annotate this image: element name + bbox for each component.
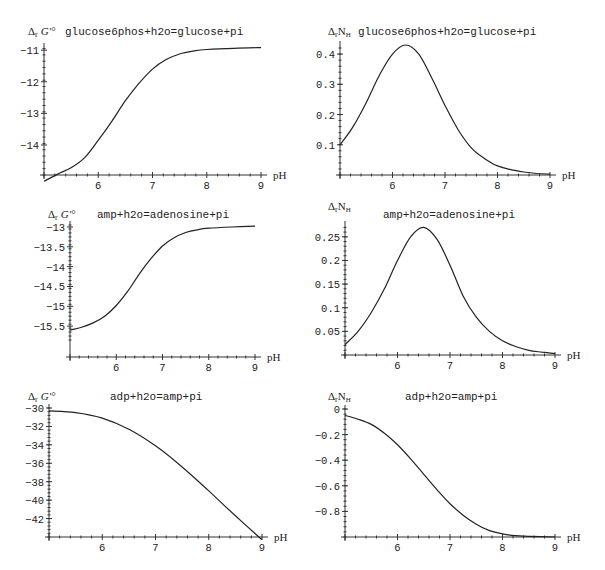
- y-tick-label: −11: [20, 45, 39, 57]
- y-tick-label: −32: [25, 421, 44, 433]
- y-tick-label: −0.6: [315, 481, 340, 493]
- x-axis-label: pH: [567, 349, 581, 361]
- y-tick-label: 0.25: [315, 232, 340, 244]
- y-tick-label: 0.3: [316, 79, 335, 91]
- x-tick-label: 8: [204, 180, 210, 192]
- figure-canvas: ΔrG'°glucose6phos+h2o=glucose+pi6789pH−1…: [0, 0, 605, 570]
- x-axis-label: pH: [567, 531, 581, 543]
- x-tick-label: 6: [99, 542, 105, 554]
- chart-panel-3: ΔrG'°amp+h2o=adenosine+pi6789pH−13−13.5−…: [33, 208, 280, 374]
- y-tick-label: −34: [25, 440, 44, 452]
- x-tick-label: 8: [499, 542, 505, 554]
- data-curve: [49, 411, 262, 540]
- y-tick-label: −36: [25, 458, 44, 470]
- y-axis-label: ΔrG'°: [28, 390, 56, 404]
- y-tick-label: −13: [20, 108, 39, 120]
- y-tick-label: 0.4: [316, 49, 335, 61]
- data-curve: [345, 227, 555, 353]
- x-axis-label: pH: [562, 169, 576, 181]
- x-tick-label: 6: [389, 180, 395, 192]
- y-axis-label: ΔrNH: [328, 200, 351, 214]
- chart-title: amp+h2o=adenosine+pi: [97, 209, 229, 221]
- chart-title: glucose6phos+h2o=glucose+pi: [358, 26, 537, 38]
- chart-title: adp+h2o=amp+pi: [110, 391, 203, 403]
- x-tick-label: 7: [447, 360, 453, 372]
- x-tick-label: 7: [159, 362, 165, 374]
- chart-title: amp+h2o=adenosine+pi: [383, 209, 515, 221]
- x-tick-label: 6: [113, 362, 119, 374]
- x-tick-label: 7: [149, 180, 155, 192]
- y-tick-label: 0.05: [315, 326, 340, 338]
- x-tick-label: 6: [394, 360, 400, 372]
- x-tick-label: 9: [259, 542, 265, 554]
- chart-panel-5: ΔrG'°adp+h2o=amp+pi6789pH−30−32−34−36−38…: [25, 390, 287, 554]
- y-tick-label: 0: [334, 404, 340, 416]
- y-tick-label: −13.5: [33, 242, 65, 254]
- x-tick-label: 9: [258, 180, 264, 192]
- y-tick-label: 0.15: [315, 279, 340, 291]
- x-tick-label: 7: [152, 542, 158, 554]
- x-axis-label: pH: [273, 169, 287, 181]
- y-tick-label: −14: [46, 262, 65, 274]
- y-axis-label: ΔrNH: [328, 390, 351, 404]
- x-tick-label: 8: [499, 360, 505, 372]
- data-curve: [345, 415, 555, 537]
- y-tick-label: 0.1: [316, 140, 335, 152]
- chart-title: adp+h2o=amp+pi: [405, 391, 498, 403]
- y-tick-label: −0.4: [315, 455, 340, 467]
- x-axis-label: pH: [274, 531, 288, 543]
- x-axis-label: pH: [267, 351, 281, 363]
- y-tick-label: −0.2: [315, 430, 340, 442]
- y-axis-label: ΔrNH: [328, 25, 351, 39]
- chart-panel-2: ΔrNHglucose6phos+h2o=glucose+pi6789pH0.1…: [316, 25, 575, 192]
- y-tick-label: −38: [25, 477, 44, 489]
- x-tick-label: 8: [494, 180, 500, 192]
- chart-panel-6: ΔrNHadp+h2o=amp+pi6789pH0−0.2−0.4−0.6−0.…: [315, 390, 581, 554]
- y-axis-label: ΔrG'°: [28, 25, 56, 39]
- y-tick-label: −14: [20, 140, 39, 152]
- x-tick-label: 6: [394, 542, 400, 554]
- y-tick-label: −42: [25, 514, 44, 526]
- data-curve: [70, 226, 255, 330]
- chart-panel-1: ΔrG'°glucose6phos+h2o=glucose+pi6789pH−1…: [20, 25, 286, 192]
- x-tick-label: 9: [252, 362, 258, 374]
- x-tick-label: 7: [447, 542, 453, 554]
- chart-title: glucose6phos+h2o=glucose+pi: [65, 26, 244, 38]
- x-tick-label: 8: [206, 362, 212, 374]
- y-tick-label: −13: [46, 222, 65, 234]
- y-tick-label: −14.5: [33, 281, 65, 293]
- y-tick-label: −0.8: [315, 506, 340, 518]
- y-tick-label: 0.2: [316, 110, 335, 122]
- y-tick-label: 0.2: [321, 255, 340, 267]
- x-tick-label: 9: [547, 180, 553, 192]
- x-tick-label: 9: [552, 360, 558, 372]
- y-tick-label: 0.1: [321, 303, 340, 315]
- chart-panel-4: ΔrNHamp+h2o=adenosine+pi6789pH0.050.10.1…: [315, 200, 581, 372]
- x-tick-label: 9: [552, 542, 558, 554]
- y-tick-label: −12: [20, 77, 39, 89]
- data-curve: [44, 48, 261, 182]
- y-tick-label: −40: [25, 495, 44, 507]
- y-tick-label: −15.5: [33, 321, 65, 333]
- x-tick-label: 7: [442, 180, 448, 192]
- data-curve: [340, 45, 550, 174]
- y-axis-label: ΔrG'°: [48, 208, 76, 222]
- y-tick-label: −15: [46, 301, 65, 313]
- y-tick-label: −30: [25, 403, 44, 415]
- x-tick-label: 8: [206, 542, 212, 554]
- x-tick-label: 6: [95, 180, 101, 192]
